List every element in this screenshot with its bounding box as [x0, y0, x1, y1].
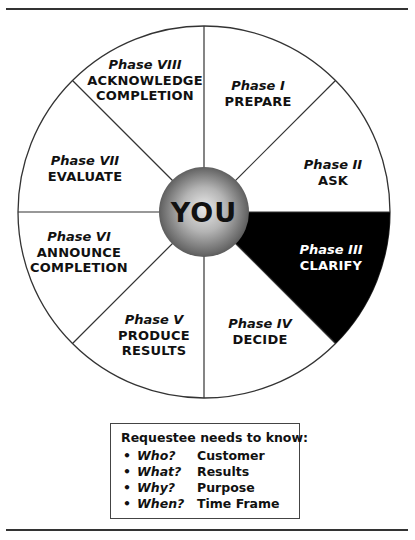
bullet-icon: • [121, 464, 137, 479]
center-label: YOU [171, 197, 237, 228]
info-box-title: Requestee needs to know: [121, 430, 299, 445]
phase-2-label: Phase II ASK [304, 157, 362, 188]
info-item-who: • Who? Customer [121, 447, 299, 463]
phase-6-label: Phase VI ANNOUNCE COMPLETION [30, 229, 128, 276]
phase-number: Phase VIII [87, 57, 203, 73]
phase-name: DECIDE [228, 332, 292, 348]
phase-name: COMPLETION [30, 260, 128, 276]
phase-name: COMPLETION [87, 88, 203, 104]
info-item-what: • What? Results [121, 463, 299, 479]
phase-number: Phase VII [48, 153, 123, 169]
bullet-icon: • [121, 448, 137, 463]
phase-1-label: Phase I PREPARE [224, 78, 291, 109]
phase-name: RESULTS [118, 343, 190, 359]
phase-number: Phase VI [30, 229, 128, 245]
phase-name: CLARIFY [299, 258, 362, 274]
bullet-icon: • [121, 496, 137, 511]
phase-number: Phase I [224, 78, 291, 94]
phase-8-label: Phase VIII ACKNOWLEDGE COMPLETION [87, 57, 203, 104]
info-answer: Customer [197, 448, 265, 463]
phase-7-label: Phase VII EVALUATE [48, 153, 123, 184]
info-question: Why? [137, 480, 197, 495]
phase-name: PRODUCE [118, 327, 190, 343]
phase-number: Phase IV [228, 316, 292, 332]
phase-name: ACKNOWLEDGE [87, 72, 203, 88]
bottom-rule [6, 529, 408, 531]
info-item-when: • When? Time Frame [121, 495, 299, 511]
phase-name: ANNOUNCE [30, 244, 128, 260]
phase-name: EVALUATE [48, 169, 123, 185]
phase-3-label: Phase III CLARIFY [299, 242, 362, 273]
phase-number: Phase V [118, 312, 190, 328]
info-answer: Results [197, 464, 249, 479]
info-answer: Time Frame [197, 496, 280, 511]
phase-name: ASK [304, 173, 362, 189]
phase-number: Phase II [304, 157, 362, 173]
requestee-info-box: Requestee needs to know: • Who? Customer… [110, 423, 300, 519]
info-question: When? [137, 496, 197, 511]
info-question: Who? [137, 448, 197, 463]
info-item-why: • Why? Purpose [121, 479, 299, 495]
info-question: What? [137, 464, 197, 479]
phase-5-label: Phase V PRODUCE RESULTS [118, 312, 190, 359]
phase-4-label: Phase IV DECIDE [228, 316, 292, 347]
bullet-icon: • [121, 480, 137, 495]
phase-number: Phase III [299, 242, 362, 258]
phase-name: PREPARE [224, 94, 291, 110]
info-answer: Purpose [197, 480, 255, 495]
